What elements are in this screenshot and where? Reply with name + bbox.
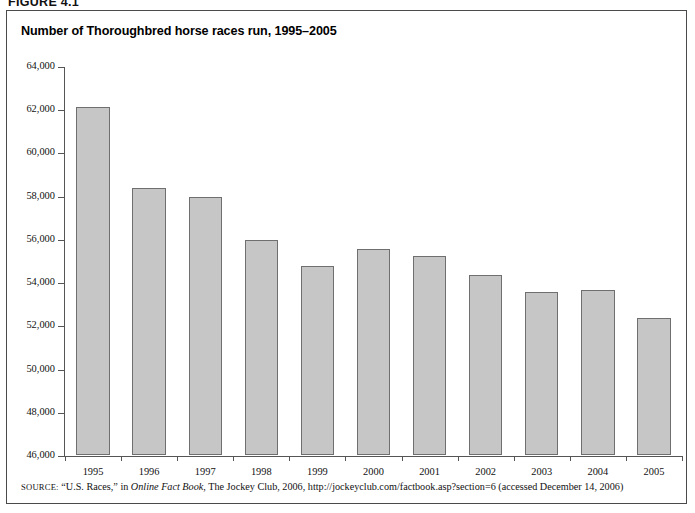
bar-1995[interactable] — [76, 107, 109, 455]
source-text-part1: “U.S. Races,” in — [61, 481, 131, 492]
x-axis-tick-mark — [570, 456, 571, 461]
y-axis-tick-label: 62,000 — [26, 103, 55, 114]
x-axis-tick-mark — [626, 456, 627, 461]
bar-group: 1995 — [76, 66, 109, 455]
x-axis-label-2002: 2002 — [469, 466, 502, 477]
bar-group: 1998 — [245, 66, 278, 455]
bar-1998[interactable] — [245, 240, 278, 455]
x-axis-line — [64, 456, 682, 457]
source-note: SOURCE: “U.S. Races,” in Online Fact Boo… — [21, 480, 676, 494]
bar-group: 1997 — [189, 66, 222, 455]
y-axis-tick-label: 58,000 — [26, 190, 55, 201]
bar-2002[interactable] — [469, 275, 502, 455]
x-axis-label-2003: 2003 — [525, 466, 558, 477]
x-axis-tick-mark — [233, 456, 234, 461]
bar-1997[interactable] — [189, 197, 222, 455]
x-axis-tick-mark — [289, 456, 290, 461]
y-axis-tick-label: 48,000 — [26, 406, 55, 417]
x-axis-label-2001: 2001 — [413, 466, 446, 477]
bar-group: 2005 — [637, 66, 670, 455]
x-axis-tick-mark — [682, 456, 683, 461]
y-axis-tick-label: 52,000 — [26, 319, 55, 330]
y-axis-tick-mark — [58, 326, 64, 327]
bar-1999[interactable] — [301, 266, 334, 455]
y-axis-tick-label: 60,000 — [26, 146, 55, 157]
y-axis-tick-mark — [58, 197, 64, 198]
source-text-part2: , The Jockey Club, 2006, http://jockeycl… — [203, 481, 623, 492]
x-axis-label-2004: 2004 — [581, 466, 614, 477]
bars-layer: 1995199619971998199920002001200220032004… — [65, 67, 681, 456]
bar-group: 1999 — [301, 66, 334, 455]
figure-frame: Number of Thoroughbred horse races run, … — [6, 10, 687, 504]
x-axis-tick-mark — [458, 456, 459, 461]
x-axis-label-1997: 1997 — [189, 466, 222, 477]
x-axis-label-1998: 1998 — [245, 466, 278, 477]
chart-title: Number of Thoroughbred horse races run, … — [21, 24, 337, 38]
y-axis-tick-mark — [58, 67, 64, 68]
bar-group: 2001 — [413, 66, 446, 455]
x-axis-label-1996: 1996 — [132, 466, 165, 477]
y-axis-tick-mark — [58, 413, 64, 414]
source-prefix: SOURCE: — [21, 482, 59, 492]
y-axis-tick-mark — [58, 456, 64, 457]
bar-group: 2002 — [469, 66, 502, 455]
figure-number-label: FIGURE 4.1 — [8, 0, 79, 8]
source-publication-title: Online Fact Book — [131, 481, 203, 492]
y-axis-tick-label: 64,000 — [26, 60, 55, 71]
y-axis-tick-label: 56,000 — [26, 233, 55, 244]
bar-2001[interactable] — [413, 256, 446, 455]
bar-2004[interactable] — [581, 290, 614, 455]
y-axis-tick-label: 54,000 — [26, 276, 55, 287]
y-axis-tick-mark — [58, 370, 64, 371]
y-axis-tick-mark — [58, 110, 64, 111]
bar-group: 2004 — [581, 66, 614, 455]
x-axis-tick-mark — [121, 456, 122, 461]
bar-1996[interactable] — [132, 188, 165, 455]
y-axis-tick-label: 46,000 — [26, 449, 55, 460]
x-axis-label-2005: 2005 — [637, 466, 670, 477]
x-axis-label-2000: 2000 — [357, 466, 390, 477]
y-axis-tick-mark — [58, 153, 64, 154]
x-axis-tick-mark — [345, 456, 346, 461]
y-axis-tick-label: 50,000 — [26, 363, 55, 374]
bar-group: 2003 — [525, 66, 558, 455]
x-axis-tick-mark — [402, 456, 403, 461]
bar-2000[interactable] — [357, 249, 390, 455]
bar-group: 1996 — [132, 66, 165, 455]
y-axis-tick-mark — [58, 240, 64, 241]
bar-group: 2000 — [357, 66, 390, 455]
plot-area: 64,00062,00060,00058,00056,00054,00052,0… — [64, 67, 681, 456]
bar-2005[interactable] — [637, 318, 670, 455]
x-axis-label-1995: 1995 — [76, 466, 109, 477]
x-axis-tick-mark — [514, 456, 515, 461]
x-axis-tick-mark — [177, 456, 178, 461]
x-axis-label-1999: 1999 — [301, 466, 334, 477]
x-axis-tick-mark — [65, 456, 66, 461]
y-axis-tick-mark — [58, 283, 64, 284]
bar-2003[interactable] — [525, 292, 558, 455]
